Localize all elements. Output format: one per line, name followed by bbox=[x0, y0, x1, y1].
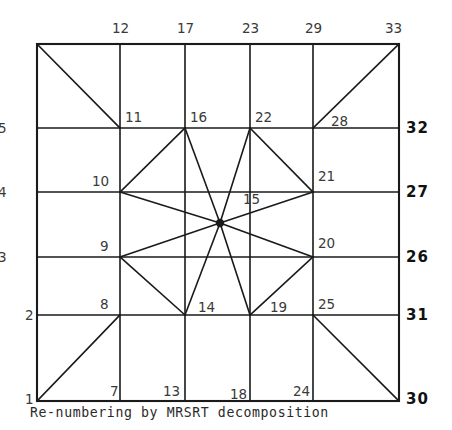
node-label-18: 18 bbox=[230, 386, 247, 402]
right-label-26: 26 bbox=[406, 248, 429, 266]
top-axis-labels: 12 17 23 29 33 bbox=[112, 20, 402, 36]
node-label-24: 24 bbox=[293, 383, 310, 399]
node-label-19: 19 bbox=[270, 299, 287, 315]
left-label-clipped-5: 5 bbox=[0, 120, 7, 136]
spoke-to-node-22 bbox=[220, 128, 250, 223]
right-label-32: 32 bbox=[406, 119, 429, 137]
node-label-25: 25 bbox=[318, 296, 335, 312]
top-label-17: 17 bbox=[177, 20, 194, 36]
spoke-to-node-20 bbox=[220, 223, 313, 257]
spoke-to-node-10 bbox=[120, 192, 220, 223]
diagonal-bottom-right bbox=[313, 315, 399, 401]
node-label-15: 15 bbox=[243, 191, 260, 207]
top-label-29: 29 bbox=[305, 20, 322, 36]
node-label-8: 8 bbox=[100, 296, 109, 312]
node-label-16: 16 bbox=[190, 109, 207, 125]
right-label-30: 30 bbox=[406, 390, 429, 408]
node-label-14: 14 bbox=[198, 299, 215, 315]
node-label-13: 13 bbox=[163, 383, 180, 399]
top-label-33: 33 bbox=[385, 20, 402, 36]
left-label-clipped-3: 3 bbox=[0, 249, 7, 265]
node-label-21: 21 bbox=[318, 168, 335, 184]
mesh-figure: 12 17 23 29 33 32 27 26 31 30 2 1 5 4 3 … bbox=[0, 0, 452, 430]
center-hub-node bbox=[216, 219, 224, 227]
left-label-clipped-4: 4 bbox=[0, 184, 7, 200]
left-axis-labels: 2 1 5 4 3 bbox=[0, 120, 34, 407]
right-label-27: 27 bbox=[406, 183, 429, 201]
diamond-edge-14-9 bbox=[120, 257, 185, 315]
node-label-20: 20 bbox=[318, 235, 335, 251]
top-label-12: 12 bbox=[112, 20, 129, 36]
spoke-to-node-21 bbox=[220, 192, 313, 223]
node-label-10: 10 bbox=[92, 173, 109, 189]
diagonal-top-right bbox=[313, 44, 399, 128]
mesh-diagram-svg: 12 17 23 29 33 32 27 26 31 30 2 1 5 4 3 … bbox=[0, 0, 452, 430]
diamond-edge-10-16 bbox=[120, 128, 185, 192]
diagonal-bottom-left bbox=[37, 315, 120, 401]
diamond-edge-22-21 bbox=[250, 128, 313, 192]
spoke-to-node-19 bbox=[220, 223, 250, 315]
node-label-7: 7 bbox=[110, 383, 119, 399]
node-label-11: 11 bbox=[125, 109, 142, 125]
spoke-to-node-9 bbox=[120, 223, 220, 257]
top-label-23: 23 bbox=[242, 20, 259, 36]
diagonal-top-left bbox=[37, 44, 120, 128]
node-label-28: 28 bbox=[331, 113, 348, 129]
node-label-9: 9 bbox=[100, 238, 109, 254]
figure-caption: Re-numbering by MRSRT decomposition bbox=[30, 405, 329, 420]
node-label-22: 22 bbox=[255, 109, 272, 125]
right-label-31: 31 bbox=[406, 306, 429, 324]
left-label-2: 2 bbox=[25, 307, 34, 323]
right-axis-labels: 32 27 26 31 30 bbox=[406, 119, 429, 408]
spoke-to-node-16 bbox=[185, 128, 220, 223]
